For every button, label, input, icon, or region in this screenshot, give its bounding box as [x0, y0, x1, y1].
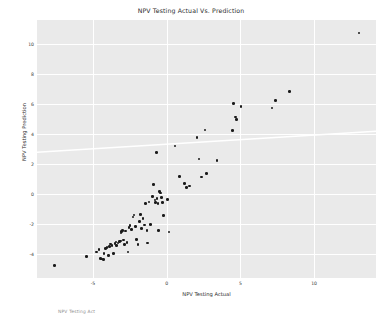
data-point: [140, 227, 143, 230]
data-point: [174, 145, 177, 148]
gridline-horizontal: [37, 134, 376, 135]
data-point: [274, 99, 277, 102]
data-point: [200, 176, 203, 179]
x-axis-ticks: -50510: [37, 281, 376, 291]
data-point: [157, 202, 160, 205]
data-point: [235, 118, 238, 121]
data-point: [271, 107, 274, 110]
gridline-vertical: [167, 20, 168, 278]
data-point: [111, 244, 114, 247]
gridline-horizontal: [37, 224, 376, 225]
data-point: [130, 228, 133, 231]
data-point: [53, 264, 56, 267]
data-point: [160, 196, 163, 199]
data-point: [151, 195, 154, 198]
y-tick-label: -4: [4, 252, 34, 257]
data-point: [159, 192, 162, 195]
x-tick-label: 10: [299, 281, 329, 286]
plot-area: [37, 20, 376, 278]
data-point: [240, 105, 243, 108]
data-point: [178, 175, 181, 178]
data-point: [198, 158, 201, 161]
gridline-vertical: [240, 20, 241, 278]
data-point: [102, 258, 105, 261]
gridline-vertical: [93, 20, 94, 278]
y-tick-label: 0: [4, 192, 34, 197]
scatter-chart-figure: NPV Testing Actual Vs. Prediction -4-202…: [0, 0, 382, 319]
data-point: [85, 255, 88, 258]
y-tick-label: 8: [4, 72, 34, 77]
data-point: [107, 254, 110, 257]
data-point: [127, 251, 130, 254]
data-point: [162, 214, 165, 217]
data-point: [138, 220, 141, 223]
data-point: [156, 197, 159, 200]
data-point: [216, 159, 219, 162]
data-point: [139, 213, 142, 216]
x-tick-label: 5: [225, 281, 255, 286]
data-point: [196, 136, 199, 139]
data-point: [103, 252, 106, 255]
data-point: [288, 90, 291, 93]
x-tick-label: -5: [78, 281, 108, 286]
trend-line: [37, 20, 376, 278]
y-tick-label: 6: [4, 102, 34, 107]
data-point: [168, 231, 171, 234]
y-axis-label: NPV Testing Prediction: [21, 62, 27, 202]
data-point: [166, 198, 169, 201]
data-point: [204, 129, 207, 132]
data-point: [231, 129, 234, 132]
data-point: [152, 183, 155, 186]
gridline-horizontal: [37, 194, 376, 195]
data-point: [137, 243, 140, 246]
data-point: [146, 242, 149, 245]
x-axis-label: NPV Testing Actual: [37, 291, 376, 297]
data-point: [358, 32, 361, 35]
data-point: [188, 185, 191, 188]
data-point: [143, 224, 146, 227]
gridline-horizontal: [37, 44, 376, 45]
gridline-horizontal: [37, 104, 376, 105]
chart-title: NPV Testing Actual Vs. Prediction: [0, 7, 382, 14]
data-point: [205, 172, 208, 175]
x-tick-label: 0: [152, 281, 182, 286]
gridline-horizontal: [37, 164, 376, 165]
data-point: [133, 214, 136, 217]
footer-note: NPV Testing Act: [58, 309, 95, 314]
data-point: [149, 223, 152, 226]
data-point: [144, 202, 147, 205]
data-point: [183, 182, 186, 185]
data-point: [155, 151, 158, 154]
y-tick-label: -2: [4, 222, 34, 227]
data-point: [112, 252, 115, 255]
data-point: [142, 217, 145, 220]
data-point: [134, 225, 137, 228]
data-point: [161, 201, 164, 204]
data-point: [135, 238, 138, 241]
y-tick-label: 10: [4, 42, 34, 47]
data-point: [148, 201, 151, 204]
data-point: [123, 243, 126, 246]
data-point: [232, 102, 235, 105]
data-point: [95, 251, 98, 254]
gridline-vertical: [314, 20, 315, 278]
data-point: [124, 230, 127, 233]
data-point: [98, 248, 101, 251]
data-point: [115, 244, 118, 247]
data-point: [157, 229, 160, 232]
data-point: [126, 241, 129, 244]
gridline-horizontal: [37, 74, 376, 75]
data-point: [146, 229, 149, 232]
gridline-horizontal: [37, 254, 376, 255]
y-axis-ticks: -4-20246810: [0, 20, 34, 278]
y-tick-label: 2: [4, 162, 34, 167]
data-point: [122, 239, 125, 242]
y-tick-label: 4: [4, 132, 34, 137]
